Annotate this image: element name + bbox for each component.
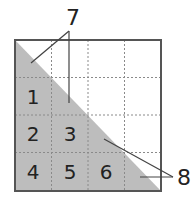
cell-label-3: 3	[64, 122, 77, 146]
grid-diagram: 1 2 3 4 5 6 7 8	[0, 0, 195, 201]
callout-label-8: 8	[177, 165, 191, 190]
cell-label-5: 5	[64, 160, 77, 184]
cell-label-6: 6	[100, 160, 113, 184]
cell-label-1: 1	[27, 85, 40, 109]
cell-label-2: 2	[27, 122, 40, 146]
cell-label-4: 4	[27, 160, 40, 184]
callout-label-7: 7	[66, 5, 80, 30]
